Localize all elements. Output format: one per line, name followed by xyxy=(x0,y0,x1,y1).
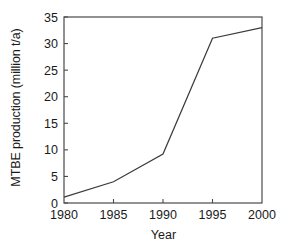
y-tick-label: 15 xyxy=(44,117,58,131)
chart-figure: MTBE production (million t/a) Year 05101… xyxy=(0,0,289,251)
y-tick-label: 30 xyxy=(44,37,58,51)
plot-frame xyxy=(64,17,262,203)
y-tick-label: 35 xyxy=(44,11,58,25)
x-axis-ticks xyxy=(114,199,213,203)
x-tick-label: 1980 xyxy=(50,208,78,222)
y-tick-label: 5 xyxy=(51,170,58,184)
x-tick-label: 1995 xyxy=(199,208,227,222)
x-tick-label: 1990 xyxy=(149,208,177,222)
y-tick-label: 20 xyxy=(44,90,58,104)
data-series-line xyxy=(64,28,262,198)
y-tick-label: 25 xyxy=(44,64,58,78)
line-chart-plot: 05101520253035 19801985199019952000 xyxy=(0,0,289,251)
x-tick-label: 2000 xyxy=(248,208,276,222)
y-axis-tick-labels: 05101520253035 xyxy=(44,11,58,211)
x-axis-tick-labels: 19801985199019952000 xyxy=(50,208,276,222)
y-tick-label: 10 xyxy=(44,143,58,157)
x-tick-label: 1985 xyxy=(100,208,128,222)
